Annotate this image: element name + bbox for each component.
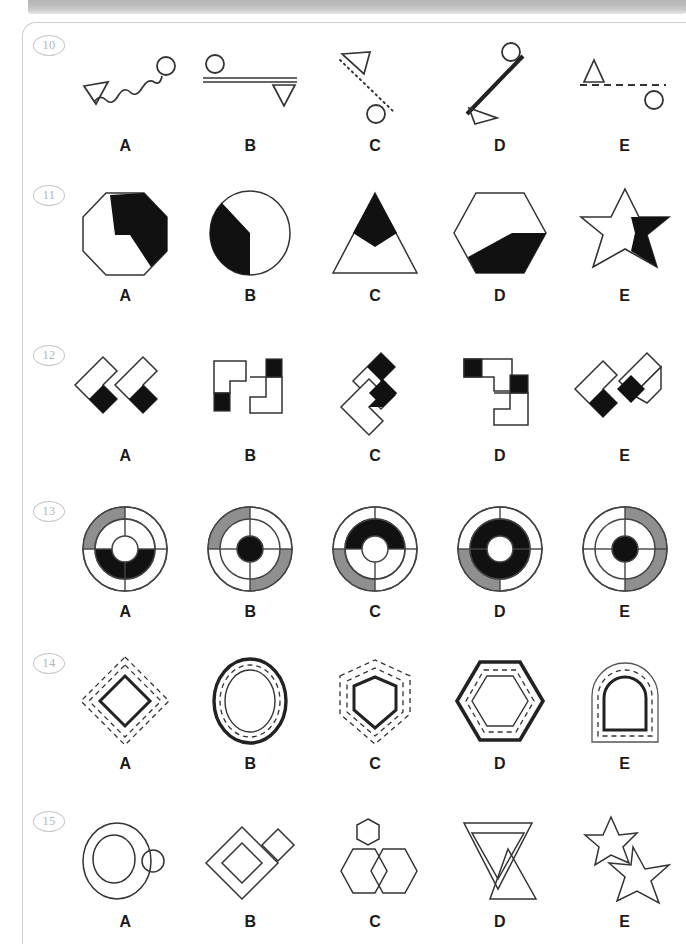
option-11-B[interactable]: B [188, 185, 313, 305]
shape-nested-arch-dashed [578, 653, 672, 749]
shape-rings-13d [454, 501, 546, 597]
option-label: D [494, 755, 506, 773]
options-row-13: A B [63, 501, 686, 621]
option-14-A[interactable]: A [63, 653, 188, 773]
option-15-D[interactable]: D [437, 811, 562, 931]
option-label: B [244, 287, 256, 305]
question-number-13: 13 [33, 501, 65, 522]
shape-diamonds-big-small [200, 811, 300, 907]
option-12-C[interactable]: C [313, 345, 438, 465]
option-label: E [619, 287, 630, 305]
option-label: D [494, 447, 506, 465]
shape-nested-oval-dashed [203, 653, 297, 749]
option-14-D[interactable]: D [437, 653, 562, 773]
option-label: C [369, 755, 381, 773]
option-15-E[interactable]: E [562, 811, 686, 931]
option-12-E[interactable]: E [562, 345, 686, 465]
shape-hexagons-two-big-one-small [325, 811, 425, 907]
option-10-A[interactable]: A [63, 35, 188, 155]
option-label: E [619, 447, 630, 465]
shape-two-step-blocks-black-squares [448, 345, 552, 441]
shape-wavy-line-triangle-circle [70, 35, 180, 131]
option-label: C [369, 447, 381, 465]
shape-octagon-black-wedge [75, 185, 175, 281]
shape-nested-pentagon-home-dashed [328, 653, 422, 749]
option-label: E [619, 755, 630, 773]
option-label: A [120, 137, 132, 155]
top-gray-bar [28, 0, 686, 14]
option-label: A [120, 447, 132, 465]
option-14-E[interactable]: E [562, 653, 686, 773]
options-row-15: A B [63, 811, 686, 931]
question-number-10: 10 [33, 35, 65, 56]
shape-rings-13e [579, 501, 671, 597]
option-label: D [494, 287, 506, 305]
shape-dashed-line-triangle-circle [570, 35, 680, 131]
shape-double-line-circle-triangle [195, 35, 305, 131]
option-11-D[interactable]: D [437, 185, 562, 305]
shape-triangle-black-diamond [325, 185, 425, 281]
option-label: B [244, 755, 256, 773]
shape-circle-black-sector [200, 185, 300, 281]
shape-thick-line-circle-triangle [445, 35, 555, 131]
option-13-C[interactable]: C [313, 501, 438, 621]
option-14-B[interactable]: B [188, 653, 313, 773]
option-13-D[interactable]: D [437, 501, 562, 621]
option-label: B [244, 137, 256, 155]
option-11-E[interactable]: E [562, 185, 686, 305]
option-10-D[interactable]: D [437, 35, 562, 155]
shape-rings-13b [204, 501, 296, 597]
options-row-11: A B C [63, 185, 686, 305]
shape-stacked-zigzags-black-diamonds [323, 345, 427, 441]
option-label: A [120, 755, 132, 773]
shape-nested-diamond-dashed [78, 653, 172, 749]
option-label: D [494, 137, 506, 155]
option-label: A [120, 287, 132, 305]
options-row-14: A B [63, 653, 686, 773]
option-label: D [494, 913, 506, 931]
shape-triangles-nested-and-upright [450, 811, 550, 907]
option-label: A [120, 913, 132, 931]
shape-dotted-line-triangle-circle [320, 35, 430, 131]
option-label: C [369, 603, 381, 621]
option-10-C[interactable]: C [313, 35, 438, 155]
option-label: B [244, 603, 256, 621]
options-row-12: A B [63, 345, 686, 465]
option-11-C[interactable]: C [313, 185, 438, 305]
option-label: E [619, 603, 630, 621]
option-13-A[interactable]: A [63, 501, 188, 621]
question-number-12: 12 [33, 345, 65, 366]
option-11-A[interactable]: A [63, 185, 188, 305]
question-number-15: 15 [33, 811, 65, 832]
option-14-C[interactable]: C [313, 653, 438, 773]
option-15-C[interactable]: C [313, 811, 438, 931]
shape-hexagon-black-band [450, 185, 550, 281]
options-row-10: A B [63, 35, 686, 155]
option-10-B[interactable]: B [188, 35, 313, 155]
option-label: E [619, 137, 630, 155]
worksheet-page: 10 A [22, 22, 686, 944]
shape-joined-zigzags-black-diamonds [573, 345, 677, 441]
question-number-14: 14 [33, 653, 65, 674]
shape-two-upright-zigzags-black-squares [198, 345, 302, 441]
shape-rings-13a [79, 501, 171, 597]
shape-two-diagonal-zigzags-black-tips [73, 345, 177, 441]
shape-nested-hexagon-dashed [453, 653, 547, 749]
shape-rings-13c [329, 501, 421, 597]
option-10-E[interactable]: E [562, 35, 686, 155]
question-number-11: 11 [33, 185, 65, 206]
option-13-B[interactable]: B [188, 501, 313, 621]
option-12-A[interactable]: A [63, 345, 188, 465]
option-label: E [619, 913, 630, 931]
option-12-D[interactable]: D [437, 345, 562, 465]
option-label: C [369, 913, 381, 931]
option-13-E[interactable]: E [562, 501, 686, 621]
option-15-B[interactable]: B [188, 811, 313, 931]
option-15-A[interactable]: A [63, 811, 188, 931]
option-label: B [244, 447, 256, 465]
option-label: A [120, 603, 132, 621]
option-label: D [494, 603, 506, 621]
option-label: B [244, 913, 256, 931]
option-12-B[interactable]: B [188, 345, 313, 465]
option-label: C [369, 137, 381, 155]
